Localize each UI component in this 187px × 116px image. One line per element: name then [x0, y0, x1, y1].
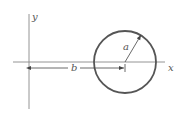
x-axis-label: x — [168, 62, 174, 73]
offset-label: b — [71, 62, 77, 73]
diagram: y x a b — [0, 0, 187, 116]
diagram-canvas: y x a b — [0, 0, 187, 116]
radius-label: a — [123, 41, 129, 52]
y-axis-label: y — [31, 11, 38, 22]
